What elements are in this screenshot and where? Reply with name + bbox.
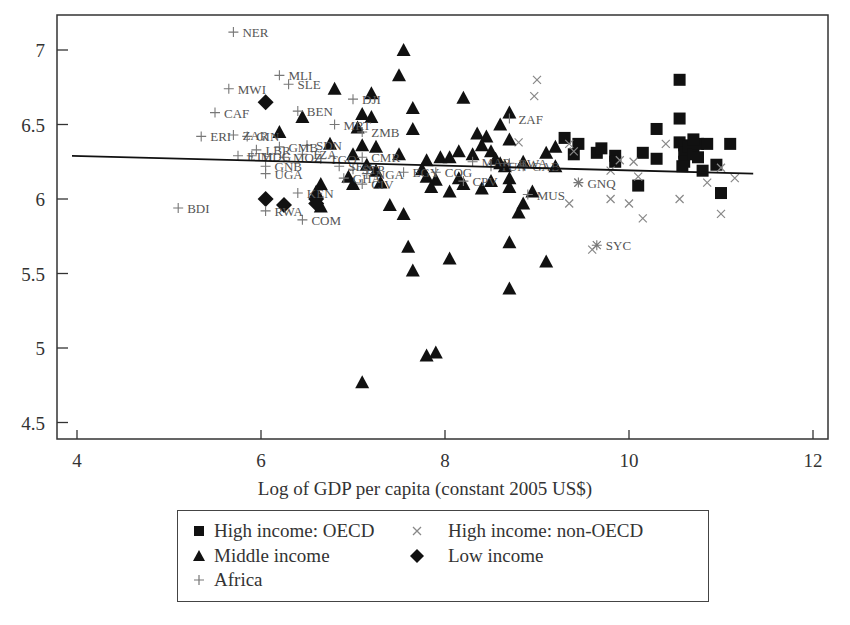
country-label: GNQ — [587, 176, 616, 191]
country-label: KEN — [307, 186, 334, 201]
x-marker — [625, 199, 633, 207]
plus-marker — [173, 203, 183, 213]
triangle-marker — [355, 138, 369, 151]
x-marker — [731, 174, 739, 182]
x-tick-label: 10 — [620, 450, 639, 471]
x-tick-label: 8 — [440, 450, 450, 471]
x-marker — [607, 195, 615, 203]
square-marker — [568, 148, 580, 160]
triangle-marker — [493, 118, 507, 131]
diamond-marker — [258, 191, 274, 207]
country-label: CIV — [371, 177, 394, 192]
country-label: SLE — [298, 77, 321, 92]
triangle-marker — [502, 281, 516, 294]
triangle-marker — [406, 101, 420, 114]
triangle-marker — [328, 82, 342, 95]
country-label: MWI — [238, 82, 266, 97]
plus-marker — [348, 94, 358, 104]
x-marker — [530, 92, 538, 100]
square-marker — [674, 74, 686, 86]
country-label: CAF — [224, 106, 249, 121]
y-tick-label: 7 — [36, 40, 46, 61]
y-tick-label: 4.5 — [21, 413, 45, 434]
country-label: SDN — [316, 138, 343, 153]
triangle-marker — [429, 345, 443, 358]
plus-marker-icon — [190, 568, 210, 592]
triangle-marker — [406, 122, 420, 135]
plus-marker — [293, 188, 303, 198]
square-marker — [687, 133, 699, 145]
triangle-marker — [456, 91, 470, 104]
plus-marker — [196, 131, 206, 141]
square-marker — [676, 160, 688, 172]
square-marker — [609, 156, 621, 168]
square-marker — [701, 138, 713, 150]
x-marker — [662, 140, 670, 148]
triangle-marker — [397, 43, 411, 56]
square-marker — [572, 138, 584, 150]
x-marker-icon — [408, 519, 428, 543]
triangle-marker — [355, 375, 369, 388]
x-marker — [533, 76, 541, 84]
x-tick-label: 4 — [72, 450, 82, 471]
square-marker — [715, 187, 727, 199]
country-label: COM — [311, 213, 341, 228]
plot-frame — [57, 15, 828, 439]
country-label: NER — [242, 25, 268, 40]
y-tick-label: 6 — [36, 189, 46, 210]
square-marker — [651, 153, 663, 165]
square-marker — [697, 165, 709, 177]
triangle-marker — [406, 264, 420, 277]
axis-ticks: 46810124.555.566.57 — [21, 40, 822, 471]
square-marker — [651, 123, 663, 135]
country-label: ERI — [210, 129, 231, 144]
plus-marker — [261, 169, 271, 179]
diamond-marker-icon — [408, 544, 428, 568]
x-marker — [565, 199, 573, 207]
x-marker — [630, 158, 638, 166]
plus-marker — [224, 84, 234, 94]
x-marker — [634, 173, 642, 181]
square-marker — [724, 138, 736, 150]
country-label: BEN — [307, 104, 334, 119]
asterisk-marker — [573, 178, 583, 188]
triangle-marker — [392, 68, 406, 81]
asterisk-marker — [592, 240, 602, 250]
x-tick-label: 6 — [256, 450, 266, 471]
country-label: MRT — [344, 118, 371, 133]
country-label: ZAF — [518, 112, 543, 127]
plus-marker — [330, 120, 340, 130]
triangle-marker — [502, 235, 516, 248]
country-label: UGA — [275, 167, 304, 182]
square-marker — [632, 180, 644, 192]
country-label: COG — [445, 165, 472, 180]
country-label: BDI — [187, 201, 209, 216]
y-tick-label: 6.5 — [21, 115, 45, 136]
square-marker — [674, 113, 686, 125]
y-tick-label: 5 — [36, 338, 46, 359]
x-tick-label: 12 — [804, 450, 823, 471]
plus-marker — [274, 70, 284, 80]
legend: High income: OECD High income: non-OECD … — [177, 510, 709, 602]
plus-marker — [228, 27, 238, 37]
x-marker — [639, 214, 647, 222]
square-marker — [692, 151, 704, 163]
country-label: MUS — [537, 188, 565, 203]
square-marker — [559, 132, 571, 144]
country-label: SYC — [606, 238, 631, 253]
country-label: GAB — [532, 159, 560, 174]
triangle-marker-icon — [190, 544, 210, 568]
country-label: ZMB — [371, 125, 400, 140]
triangle-marker — [452, 144, 466, 157]
scatter-plot: 46810124.555.566.57 NERMLISLEMWICAFBENDJ… — [0, 0, 850, 500]
country-label: EGY — [413, 165, 440, 180]
country-label: CPV — [472, 174, 498, 189]
square-marker — [595, 142, 607, 154]
x-marker — [676, 195, 684, 203]
triangle-marker — [443, 185, 457, 198]
y-tick-label: 5.5 — [21, 264, 45, 285]
x-axis-label: Log of GDP per capita (constant 2005 US$… — [0, 478, 850, 500]
triangle-marker — [383, 198, 397, 211]
country-label: RWA — [275, 204, 304, 219]
triangle-marker — [397, 207, 411, 220]
